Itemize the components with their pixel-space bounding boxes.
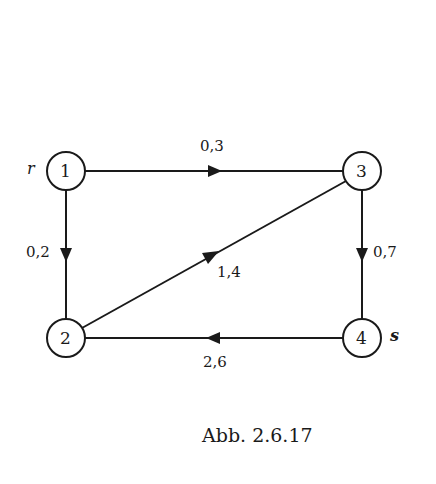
- arrowhead-4-2-icon: [206, 332, 220, 344]
- node-2-label: 2: [60, 328, 71, 348]
- figure-caption: Abb. 2.6.17: [202, 424, 313, 446]
- arrowhead-1-3-icon: [208, 165, 222, 177]
- edge-4-2-weight: 2,6: [203, 353, 227, 371]
- edge-1-3-weight: 0,3: [200, 137, 224, 155]
- edge-2-3-weight: 1,4: [217, 263, 241, 281]
- sink-tag-s: s: [390, 326, 399, 345]
- source-tag-r: r: [27, 159, 35, 178]
- edge-1-2-weight: 0,2: [26, 243, 50, 261]
- edge-3-4-weight: 0,7: [373, 243, 397, 261]
- arrowhead-3-4-icon: [356, 248, 368, 262]
- node-4-label: 4: [356, 328, 367, 348]
- node-1-label: 1: [60, 161, 71, 181]
- arrowhead-1-2-icon: [60, 248, 72, 262]
- graph-canvas: [0, 0, 436, 484]
- node-3-label: 3: [356, 161, 367, 181]
